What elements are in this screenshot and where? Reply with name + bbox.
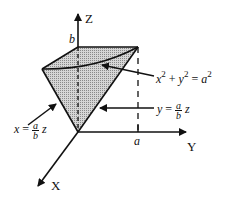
- z-axis-label: Z: [85, 12, 93, 25]
- diagram-canvas: [0, 0, 244, 203]
- plane-x-equation: x = ab z: [14, 121, 47, 140]
- y-axis-label: Y: [187, 140, 196, 153]
- shaded-solid: [42, 47, 138, 132]
- plane-y-equation: y = ab z: [157, 101, 190, 120]
- x-axis-label: X: [51, 179, 60, 192]
- z-tick-label-b: b: [69, 33, 75, 45]
- fraction-a-over-b: ab: [175, 101, 182, 120]
- fraction-a-over-b: ab: [32, 121, 39, 140]
- y-tick-label-a: a: [134, 135, 140, 147]
- cylinder-equation: x2 + y2 = a2: [156, 70, 212, 85]
